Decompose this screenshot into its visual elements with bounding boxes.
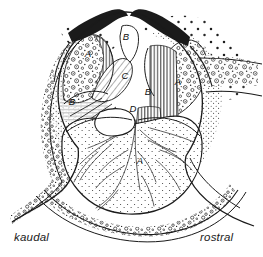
anatomical-section-drawing: A B A C B B D A — [0, 0, 263, 257]
lower-bulb — [62, 109, 202, 214]
orientation-label-rostral: rostral — [200, 231, 233, 243]
label-a-right: A — [174, 76, 181, 87]
label-b-left: B — [69, 96, 76, 107]
label-b-apex: B — [123, 31, 130, 42]
label-d: D — [130, 103, 137, 114]
label-a-bulb: A — [136, 155, 143, 166]
orientation-label-kaudal: kaudal — [14, 231, 49, 243]
figure-root: A B A C B B D A kaudal rostral — [0, 0, 263, 257]
label-b-center: B — [145, 86, 152, 97]
label-a-left: A — [84, 48, 91, 59]
label-c: C — [122, 70, 129, 81]
